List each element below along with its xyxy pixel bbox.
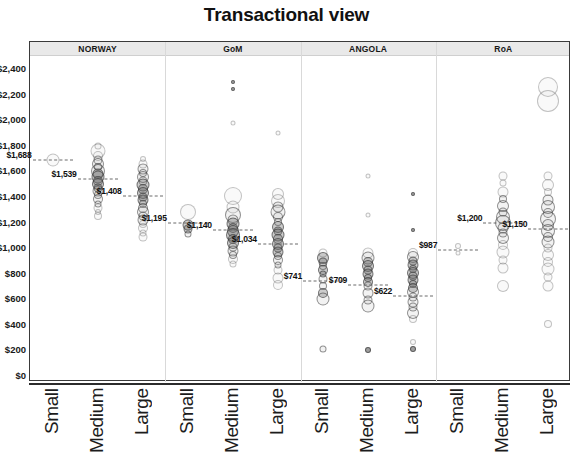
mean-value-label: $1,140 [187,220,214,230]
transactional-view-chart: Transactional view Unit invoice price $2… [0,0,573,474]
mean-value-label: $1,200 [457,213,484,223]
x-axis-tick-label: Small [41,388,63,474]
y-axis-tick-label: $2,200 [0,88,26,99]
x-axis-tick-label: Medium [221,388,243,474]
x-axis-tick-label: Large [266,388,288,474]
data-point [275,130,280,135]
x-axis-tick-label: Large [131,388,153,474]
mean-value-label: $709 [329,275,349,285]
mean-line [33,160,73,161]
data-point [230,120,235,125]
data-point [229,261,236,268]
data-point [362,300,375,313]
mean-line [393,296,433,297]
data-point [365,347,371,353]
x-axis-tick-label: Medium [356,388,378,474]
mean-value-label: $622 [374,286,394,296]
y-axis-tick-label: $1,800 [0,139,26,150]
y-axis-tick-label: $2,000 [0,114,26,125]
data-point [184,230,191,237]
x-axis-tick-label: Medium [491,388,513,474]
y-axis-tick-label: $600 [0,293,26,304]
mean-line [528,228,568,229]
data-point [138,233,147,242]
data-point [456,251,461,256]
mean-line [438,249,478,250]
y-axis-tick-label: $1,600 [0,165,26,176]
data-point [317,292,330,305]
mean-value-label: $1,195 [142,213,169,223]
y-axis-tick-label: $800 [0,267,26,278]
data-point [411,228,415,232]
mean-line [123,195,163,196]
data-point [231,80,235,84]
x-axis-tick-label: Small [176,388,198,474]
y-axis-tick-label: $0 [0,370,26,381]
data-point [180,204,196,220]
region-separator [436,42,437,382]
data-point [543,281,554,292]
mean-line [213,230,253,231]
data-point [455,243,461,249]
plot-frame: NORWAYGoMANGOLARoA $1,688$1,539$1,408$1,… [29,41,570,381]
data-point [273,280,283,290]
mean-line [78,179,118,180]
x-axis-line [29,383,570,385]
region-separator [301,42,302,382]
data-point [366,213,371,218]
y-axis-tick-label: $1,000 [0,242,26,253]
mean-line [258,243,298,244]
x-axis-tick-label: Large [401,388,423,474]
mean-value-label: $1,539 [52,169,79,179]
mean-value-label: $987 [419,240,439,250]
data-point [320,345,327,352]
data-point [544,320,552,328]
plot-area: $1,688$1,539$1,408$1,195$1,140$1,034$741… [30,42,571,382]
x-axis-tick-label: Small [446,388,468,474]
mean-value-label: $741 [284,271,304,281]
data-point [411,192,415,196]
data-point [497,280,509,292]
y-axis-tick-label: $2,400 [0,63,26,74]
mean-value-label: $1,688 [6,150,33,160]
y-axis-tick-label: $1,400 [0,190,26,201]
data-point [94,212,102,220]
x-axis-tick-label: Medium [86,388,108,474]
chart-title: Transactional view [0,4,573,26]
y-axis-tick-label: $200 [0,344,26,355]
data-point [409,315,417,323]
data-point [366,174,371,179]
x-axis-tick-label: Large [536,388,558,474]
mean-value-label: $1,034 [232,234,259,244]
mean-value-label: $1,150 [502,219,529,229]
data-point [498,262,509,273]
mean-value-label: $1,408 [97,186,124,196]
region-separator [165,42,166,382]
y-axis-tick-label: $1,200 [0,216,26,227]
data-point [410,339,416,345]
data-point [537,90,559,112]
x-axis-tick-label: Small [311,388,333,474]
data-point [410,346,416,352]
y-axis-tick-label: $400 [0,318,26,329]
data-point [231,87,235,91]
